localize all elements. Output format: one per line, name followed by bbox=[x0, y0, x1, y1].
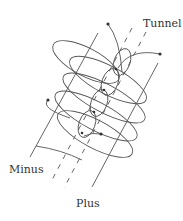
tunnel-dashes bbox=[52, 28, 146, 188]
left-arrow bbox=[46, 100, 70, 118]
diagram-drawing bbox=[0, 0, 183, 221]
minus-label: Minus bbox=[9, 164, 44, 175]
tunnel-label: Tunnel bbox=[143, 18, 182, 29]
tunnel-diagram: Tunnel Minus Plus bbox=[0, 0, 183, 221]
right-arrow bbox=[118, 53, 160, 68]
base-connector bbox=[36, 146, 82, 160]
minus-rail bbox=[30, 33, 98, 157]
tunnel-inner-loops bbox=[75, 46, 135, 140]
loop-ellipses bbox=[47, 32, 153, 166]
plus-label: Plus bbox=[76, 198, 100, 209]
bottom-arrow bbox=[84, 133, 101, 136]
